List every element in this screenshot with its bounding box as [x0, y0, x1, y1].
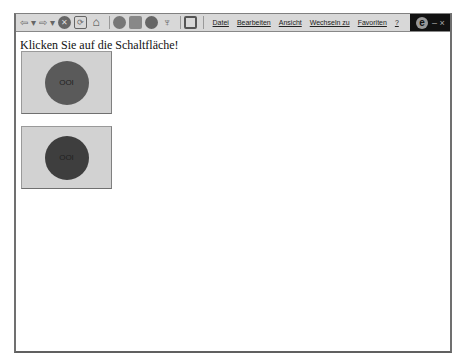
toolbar: ⇦ ▾ ⇨ ▾ ✕ ⟳ ⌂ ♆ Datei Bearbeiten Ansicht…: [16, 14, 450, 32]
fullscreen-button[interactable]: [184, 15, 197, 30]
refresh-icon: ⟳: [74, 16, 87, 29]
menu-datei[interactable]: Datei: [213, 19, 229, 26]
channels-icon: ♆: [161, 16, 174, 29]
home-icon: ⌂: [90, 16, 103, 29]
stop-button[interactable]: ✕: [58, 15, 71, 30]
history-icon: [145, 16, 158, 29]
forward-arrow-icon: ⇨ ▾: [39, 17, 55, 28]
menu-bearbeiten[interactable]: Bearbeiten: [237, 19, 271, 26]
image-button-2[interactable]: OOI: [21, 126, 112, 189]
home-button[interactable]: ⌂: [90, 15, 103, 30]
window-controls[interactable]: – ×: [432, 18, 445, 28]
button-label: OOI: [59, 78, 74, 87]
browser-window: ⇦ ▾ ⇨ ▾ ✕ ⟳ ⌂ ♆ Datei Bearbeiten Ansicht…: [14, 13, 452, 353]
forward-button[interactable]: ⇨ ▾: [39, 15, 55, 30]
toolbar-separator: [203, 16, 204, 29]
button-label: OOI: [59, 153, 74, 162]
favorites-button[interactable]: [129, 15, 142, 30]
favorites-icon: [129, 16, 142, 29]
brand-area: e – ×: [410, 14, 450, 31]
search-icon: [113, 16, 126, 29]
menu-favoriten[interactable]: Favoriten: [358, 19, 387, 26]
menu-ansicht[interactable]: Ansicht: [279, 19, 302, 26]
channels-button[interactable]: ♆: [161, 15, 174, 30]
toolbar-separator: [109, 16, 110, 29]
menu-wechseln-zu[interactable]: Wechseln zu: [310, 19, 350, 26]
image-button-1[interactable]: OOI: [21, 51, 112, 114]
back-arrow-icon: ⇦ ▾: [20, 17, 36, 28]
menu-bar: Datei Bearbeiten Ansicht Wechseln zu Fav…: [213, 19, 407, 26]
history-button[interactable]: [145, 15, 158, 30]
circle-icon: OOI: [45, 136, 89, 180]
back-button[interactable]: ⇦ ▾: [20, 15, 36, 30]
menu-help[interactable]: ?: [395, 19, 399, 26]
refresh-button[interactable]: ⟳: [74, 15, 87, 30]
circle-icon: OOI: [45, 61, 89, 105]
ie-logo-icon: e: [416, 17, 428, 29]
stop-icon: ✕: [58, 16, 71, 29]
toolbar-separator: [180, 16, 181, 29]
search-button[interactable]: [113, 15, 126, 30]
fullscreen-icon: [184, 16, 197, 29]
